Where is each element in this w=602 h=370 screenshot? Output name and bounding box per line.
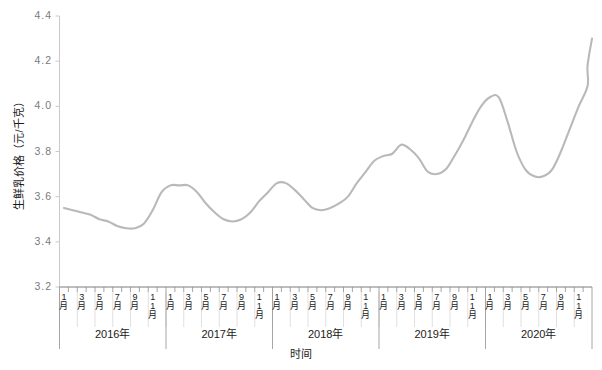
x-month-label: 11月 — [254, 292, 263, 318]
x-month-label: 9月 — [130, 292, 139, 309]
x-month-label: 11月 — [574, 292, 583, 318]
x-month-label: 1月 — [165, 292, 174, 309]
x-month-label: 7月 — [538, 292, 547, 309]
x-month-label: 1月 — [378, 292, 387, 309]
x-axis-title: 时间 — [0, 345, 602, 361]
x-month-label: 5月 — [307, 292, 316, 309]
x-month-label: 9月 — [236, 292, 245, 309]
x-month-label: 1月 — [485, 292, 494, 309]
plot-svg — [0, 0, 602, 370]
chart-container: 生鲜乳价格（元/千克） 3.23.43.63.84.04.24.4 1月3月5月… — [0, 0, 602, 370]
x-month-label: 1月 — [272, 292, 281, 309]
x-month-label: 7月 — [432, 292, 441, 309]
x-month-label: 3月 — [396, 292, 405, 309]
x-month-label: 9月 — [449, 292, 458, 309]
x-month-label: 5月 — [520, 292, 529, 309]
x-month-label: 7月 — [112, 292, 121, 309]
x-year-label: 2019年 — [379, 325, 486, 341]
x-month-label: 1月 — [59, 292, 68, 309]
x-month-label: 11月 — [148, 292, 157, 318]
x-month-label: 7月 — [219, 292, 228, 309]
x-month-label: 3月 — [290, 292, 299, 309]
x-month-label: 5月 — [94, 292, 103, 309]
data-line-series-0 — [64, 39, 592, 229]
x-month-label: 5月 — [201, 292, 210, 309]
x-month-label: 9月 — [556, 292, 565, 309]
x-year-label: 2016年 — [60, 325, 167, 341]
x-month-label: 11月 — [467, 292, 476, 318]
x-month-label: 11月 — [361, 292, 370, 318]
x-year-label: 2017年 — [166, 325, 273, 341]
x-month-label: 3月 — [503, 292, 512, 309]
axis-lines — [60, 16, 593, 287]
x-year-label: 2018年 — [273, 325, 380, 341]
x-month-label: 9月 — [343, 292, 352, 309]
x-month-label: 7月 — [325, 292, 334, 309]
x-month-label: 3月 — [77, 292, 86, 309]
x-month-label: 3月 — [183, 292, 192, 309]
x-year-label: 2020年 — [486, 325, 593, 341]
x-month-label: 5月 — [414, 292, 423, 309]
